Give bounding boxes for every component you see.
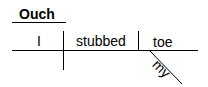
modifier-diagonal <box>0 0 208 87</box>
